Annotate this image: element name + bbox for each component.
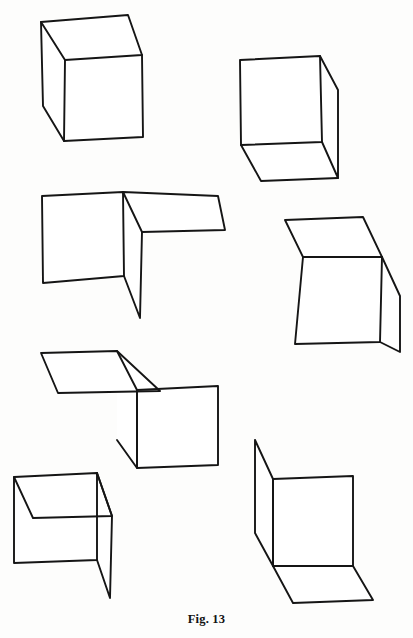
figure-7-floor-flap-face [273, 566, 373, 603]
figure-caption: Fig. 13 [0, 612, 413, 627]
figure-4-front-face [295, 257, 382, 344]
figure-1-front-face [64, 55, 143, 141]
figure-7-open-corner-lower-right [255, 440, 373, 603]
figure-3-left-wall-face [42, 192, 124, 283]
figure-6-open-cube-lower-left [14, 473, 112, 598]
figure-plate: Fig. 13 [0, 0, 413, 638]
figure-1-opaque-cube-upper-left [41, 15, 143, 141]
figure-drawing-canvas [0, 0, 413, 638]
figure-3-open-corner-middle-left [42, 192, 225, 318]
figure-7-back-wall-face [273, 476, 353, 566]
figure-5-top-flap-face [41, 351, 160, 393]
figure-2-bottom-face [241, 142, 338, 181]
figure-5-open-corner-middle-lower-left [41, 351, 218, 468]
figure-5-front-face [137, 386, 218, 468]
figure-2-front-face [240, 56, 322, 145]
figure-2-cube-from-below-upper-right [240, 56, 338, 181]
figure-4-right-flap-face [380, 257, 400, 352]
figure-4-open-box-middle-right [285, 217, 400, 352]
